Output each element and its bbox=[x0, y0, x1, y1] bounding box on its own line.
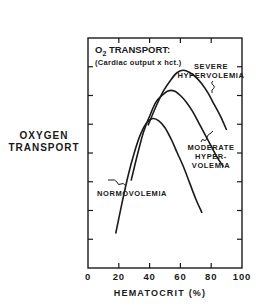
chart-title: O2 TRANSPORT: bbox=[95, 44, 170, 57]
annotation-moderate-line2: HYPER- bbox=[195, 152, 227, 161]
oxygen-transport-chart: 020406080100 O2 TRANSPORT: (Cardiac outp… bbox=[0, 0, 264, 306]
annotation-normovolemia: NORMOVOLEMIA bbox=[97, 189, 167, 198]
y-axis-label-line1: OXYGEN bbox=[20, 130, 69, 141]
x-tick-label: 60 bbox=[174, 271, 186, 282]
curve-normovolemia bbox=[116, 118, 202, 233]
x-tick-label: 20 bbox=[113, 271, 125, 282]
y-axis-label-line2: TRANSPORT bbox=[8, 142, 79, 153]
x-tick-label: 80 bbox=[205, 271, 217, 282]
annotation-moderate-line3: VOLEMIA bbox=[192, 161, 230, 170]
annotation-normovolemia-pointer bbox=[108, 180, 126, 186]
annotation-moderate-line1: MODERATE bbox=[187, 143, 234, 152]
chart-subtitle: (Cardiac output x hct.) bbox=[95, 58, 182, 67]
annotation-severe-line1: SEVERE bbox=[194, 62, 228, 71]
annotation-severe-pointer bbox=[212, 81, 215, 93]
x-tick-label: 40 bbox=[144, 271, 156, 282]
x-axis-tick-labels: 020406080100 bbox=[85, 271, 251, 282]
x-tick-label: 0 bbox=[85, 271, 91, 282]
annotation-moderate-pointer bbox=[201, 131, 213, 142]
x-tick-label: 100 bbox=[233, 271, 251, 282]
x-axis-label: HEMATOCRIT (%) bbox=[114, 288, 206, 298]
annotation-severe-line2: HYPERVOLEMIA bbox=[177, 71, 244, 80]
